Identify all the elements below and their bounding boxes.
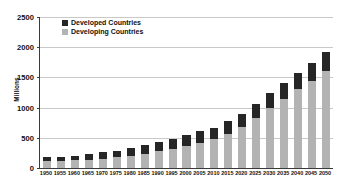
bar-segment-developing [322,71,330,168]
y-axis-tick-labels: 05001000150020002500 [0,0,37,194]
bar-column [238,114,246,168]
bar-segment-developed [169,139,177,149]
x-axis-tick-label: 1950 [40,170,52,176]
bar-segment-developing [266,108,274,168]
bar-column [252,104,260,168]
bar-segment-developing [113,157,121,168]
y-axis-tick-label: 1500 [17,73,34,82]
legend-item: Developed Countries [62,19,143,26]
bar-segment-developed [252,104,260,118]
bar-column [155,142,163,168]
x-axis-tick-label: 2015 [221,170,233,176]
bar-segment-developed [238,114,246,127]
bar-column [266,93,274,168]
y-axis-tick-label: 2500 [17,13,34,22]
x-axis-tick-labels: 1950195519601965197019751980198519901995… [39,170,332,186]
y-axis-tick-label: 2000 [17,43,34,52]
bar-segment-developed [210,128,218,139]
legend-label: Developed Countries [71,19,141,26]
bar-column [85,154,93,168]
x-axis-tick-label: 2020 [235,170,247,176]
bar-segment-developing [252,118,260,168]
x-axis-tick-label: 2050 [319,170,331,176]
x-axis-tick-label: 1965 [82,170,94,176]
x-axis-tick-label: 2045 [305,170,317,176]
bar-column [99,152,107,168]
bar-segment-developed [280,83,288,99]
bar-column [322,52,330,168]
x-axis-tick-label: 1960 [68,170,80,176]
x-axis-tick-label: 1955 [54,170,66,176]
stacked-bar-chart: Millions 05001000150020002500 1950195519… [0,0,337,194]
plot-area [39,17,333,169]
x-axis-tick-label: 1990 [151,170,163,176]
x-axis-tick-label: 1995 [165,170,177,176]
bar-column [43,157,51,168]
bar-segment-developing [85,160,93,168]
bar-segment-developing [210,139,218,168]
bar-segment-developing [155,151,163,168]
bar-segment-developed [155,142,163,151]
x-axis-tick-label: 2005 [193,170,205,176]
x-axis-tick-label: 1970 [96,170,108,176]
bar-segment-developing [127,156,135,168]
bar-segment-developing [294,89,302,168]
bar-segment-developed [127,148,135,156]
chart-legend: Developed CountriesDeveloping Countries [62,19,143,35]
x-axis-tick-label: 1975 [110,170,122,176]
bar-column [308,63,316,168]
legend-swatch-icon [62,20,68,26]
bar-segment-developing [43,161,51,168]
bar-segment-developed [182,135,190,146]
bar-column [196,131,204,168]
bar-column [127,148,135,168]
bar-segment-developing [280,99,288,168]
bar-segment-developed [196,131,204,142]
bar-column [224,121,232,168]
legend-swatch-icon [62,29,68,35]
x-axis-tick-label: 2030 [263,170,275,176]
bar-column [57,157,65,168]
bar-segment-developed [266,93,274,108]
bar-column [294,73,302,168]
bar-segment-developing [308,81,316,168]
bar-segment-developed [322,52,330,71]
bar-column [113,151,121,169]
bar-segment-developed [308,63,316,81]
bar-segment-developing [182,146,190,168]
y-axis-tick-label: 1000 [17,103,34,112]
x-axis-tick-label: 2025 [249,170,261,176]
y-axis-tick-label: 0 [30,164,34,173]
bar-segment-developing [99,159,107,168]
bar-segment-developing [141,154,149,168]
bar-column [280,83,288,168]
bar-segment-developed [294,73,302,90]
bar-segment-developing [196,143,204,168]
bar-column [182,135,190,168]
bar-segment-developing [224,134,232,168]
bar-segment-developed [141,145,149,154]
legend-label: Developing Countries [71,28,143,35]
y-axis-tick-label: 500 [21,133,34,142]
x-axis-tick-label: 2040 [291,170,303,176]
bar-column [141,145,149,168]
bar-segment-developing [169,149,177,168]
bar-segment-developed [113,151,121,158]
bar-segment-developing [238,127,246,168]
bar-column [169,139,177,168]
x-axis-tick-label: 1985 [138,170,150,176]
bar-segment-developing [71,160,79,168]
y-axis-tickmark [37,168,41,169]
bar-segment-developing [57,161,65,168]
x-axis-tick-label: 2010 [207,170,219,176]
bar-segment-developed [224,121,232,133]
bar-column [210,128,218,168]
legend-item: Developing Countries [62,28,143,35]
bar-group [40,17,333,168]
bar-column [71,156,79,168]
x-axis-tick-label: 2000 [179,170,191,176]
x-axis-tick-label: 1980 [124,170,136,176]
x-axis-tick-label: 2035 [277,170,289,176]
